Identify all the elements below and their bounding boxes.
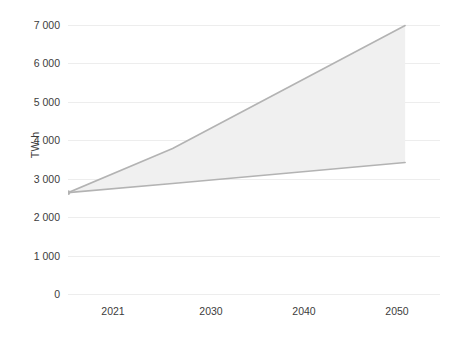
x-tick-label: 2040 — [292, 305, 315, 317]
plot-area — [68, 20, 440, 300]
chart-container: TW·h 7 000 6 000 5 000 4 000 3 000 2 000… — [0, 0, 458, 342]
y-axis-tick-labels: 7 000 6 000 5 000 4 000 3 000 2 000 1 00… — [0, 0, 68, 342]
y-tick-label: 3 000 — [34, 173, 60, 185]
y-tick-label: 4 000 — [34, 134, 60, 146]
x-tick-label: 2050 — [385, 305, 408, 317]
x-tick-label: 2021 — [101, 305, 124, 317]
y-tick-label: 2 000 — [34, 211, 60, 223]
x-tick-label: 2030 — [199, 305, 222, 317]
y-tick-label: 1 000 — [34, 250, 60, 262]
x-axis-tick-labels: 2021 2030 2040 2050 — [0, 305, 458, 325]
y-tick-label: 0 — [54, 288, 60, 300]
plot-svg — [68, 20, 440, 300]
y-tick-label: 7 000 — [34, 19, 60, 31]
y-tick-label: 6 000 — [34, 57, 60, 69]
y-tick-label: 5 000 — [34, 96, 60, 108]
